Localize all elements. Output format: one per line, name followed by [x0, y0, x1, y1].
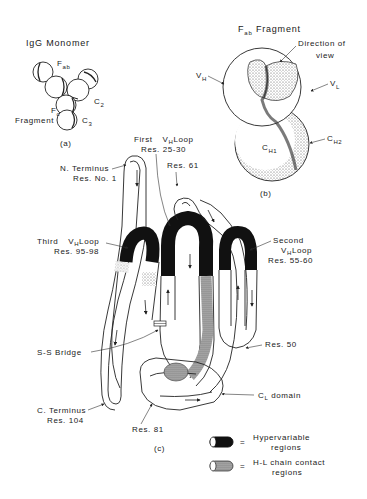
third-vh-loop-res-label: Res. 95-98 [54, 247, 99, 256]
legend-equals-2: = [240, 462, 245, 471]
panel-c-caption: (c) [154, 444, 165, 453]
second-vh-loop-hypervariable [225, 232, 251, 270]
c-terminus-strand [101, 226, 122, 410]
third-vh-loop-label: ThirdVHLoop [37, 237, 99, 247]
legend-hypervariable-label-2: regions [271, 443, 301, 452]
res50-label: Res. 50 [265, 340, 297, 349]
c-terminus-res-label: Res. 104 [47, 416, 84, 425]
legend-contact-label-2: regions [272, 468, 302, 477]
fragment-label: Fragment [15, 116, 54, 125]
legend-contact-label: H-L chain contact [253, 458, 325, 467]
n-terminus-res-label: Res. No. 1 [73, 174, 117, 183]
res61-label: Res. 61 [167, 161, 199, 170]
third-loop-contact-region [114, 261, 129, 273]
first-vh-loop-res-label: Res. 25-30 [141, 145, 186, 154]
third-vh-loop-hypervariable [126, 233, 153, 262]
antibody-diagram: IgG Monomer Fab C2 Fc Fragment C3 (a) Fa… [0, 0, 367, 499]
panel-b-fab-fragment: Fab Fragment Direction of view VH VL CH1… [196, 24, 346, 198]
panel-a-caption: (a) [60, 139, 72, 148]
c2-label: C2 [94, 97, 104, 108]
cl-contact-region [164, 363, 188, 381]
vl-label: VL [330, 79, 340, 90]
second-vh-loop-res-label: Res. 55-60 [268, 256, 313, 265]
second-vh-loop-label-2: VHLoop [281, 246, 312, 256]
ch2-label: CH2 [327, 134, 342, 145]
first-vh-loop-label: FirstVHLoop [134, 135, 194, 145]
panel-b-title: Fab Fragment [238, 24, 301, 36]
c3-label: C3 [82, 116, 92, 127]
legend-item-contact: = H-L chain contact regions [210, 458, 325, 477]
res81-label: Res. 81 [132, 425, 164, 434]
first-vh-loop-hypervariable [168, 218, 206, 276]
legend-item-hypervariable: = Hypervariable regions [210, 433, 310, 452]
panel-c-vh-domain-fold: FirstVHLoop Res. 25-30 N. Terminus Res. … [37, 135, 313, 453]
vh-label: VH [196, 71, 207, 82]
c-terminus-label: C. Terminus [37, 406, 86, 415]
legend-hypervariable-label: Hypervariable [253, 433, 310, 442]
second-vh-loop-label: Second [273, 236, 304, 245]
n-terminus-label: N. Terminus [60, 164, 109, 173]
panel-a-title: IgG Monomer [26, 38, 90, 48]
ss-bridge-label: S-S Bridge [37, 348, 82, 357]
legend: = Hypervariable regions = H-L chain cont… [210, 433, 325, 477]
direction-of-view-label-2: view [316, 51, 334, 60]
cl-domain-label: CL domain [258, 391, 301, 401]
panel-a-igg-monomer: IgG Monomer Fab C2 Fc Fragment C3 (a) [15, 38, 104, 148]
direction-of-view-label: Direction of [298, 39, 346, 48]
panel-b-caption: (b) [260, 189, 272, 198]
legend-equals: = [240, 438, 245, 447]
fab-label: Fab [57, 59, 70, 70]
third-loop-contact-region-2 [142, 272, 156, 286]
